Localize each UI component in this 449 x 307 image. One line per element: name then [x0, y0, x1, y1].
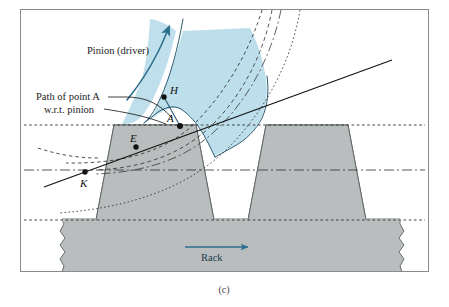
point-k-marker [82, 169, 87, 174]
point-e-label: E [129, 132, 137, 144]
point-e-marker [133, 144, 138, 149]
point-k-label: K [79, 177, 88, 189]
rack-tooth-2 [248, 125, 366, 220]
path-of-point-a-label-line1: Path of point A [36, 91, 100, 102]
path-of-point-a-label-line2: w.r.t. pinion [44, 104, 95, 115]
point-a-label: A [166, 112, 174, 124]
point-a-marker [177, 123, 183, 129]
point-h-marker [161, 94, 166, 99]
figure-caption: (c) [218, 284, 229, 296]
point-h-label: H [169, 84, 179, 96]
pinion-label: Pinion (driver) [87, 45, 150, 57]
rack-label: Rack [201, 252, 223, 263]
figure-container: Pinion (driver) Path of point A w.r.t. p… [0, 0, 449, 307]
gear-rack-diagram: Pinion (driver) Path of point A w.r.t. p… [0, 0, 449, 307]
